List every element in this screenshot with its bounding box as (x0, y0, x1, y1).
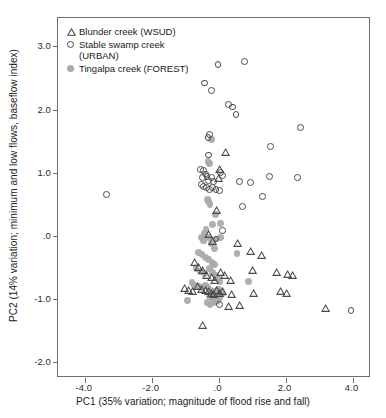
y-tick-label: 3.0 (37, 40, 51, 51)
legend-item: Stable swamp creek (URBAN) (66, 39, 188, 62)
legend-item-label: Blunder creek (WSUD) (79, 26, 176, 38)
x-tick-label: 2.0 (278, 382, 292, 393)
data-point-urban (236, 178, 243, 185)
x-tick-label: 4.0 (345, 382, 359, 393)
x-tick-label: .0 (214, 382, 222, 393)
data-point-urban (239, 203, 246, 210)
data-point-forest (211, 245, 218, 252)
y-tick-mark (53, 46, 58, 47)
data-point-urban (297, 124, 304, 131)
y-tick-label: -2.0 (34, 356, 51, 367)
y-tick-mark (53, 173, 58, 174)
data-point-urban (266, 173, 273, 180)
data-point-forest (217, 220, 224, 227)
y-tick-label: 2.0 (37, 103, 51, 114)
data-point-forest (206, 160, 213, 167)
legend-triangle-icon (66, 26, 79, 38)
data-point-urban (208, 87, 215, 94)
data-point-urban (348, 307, 355, 314)
x-tick-label: -2.0 (142, 382, 159, 393)
legend-item: Blunder creek (WSUD) (66, 26, 188, 38)
legend-item-label: Tingalpa creek (FOREST) (79, 63, 188, 75)
y-tick-mark (53, 110, 58, 111)
data-point-urban (103, 191, 110, 198)
data-point-forest (234, 250, 241, 257)
data-point-urban (216, 187, 223, 194)
data-point-urban (267, 143, 274, 150)
data-point-forest (184, 297, 191, 304)
x-axis-title: PC1 (35% variation; magnitude of flood r… (0, 396, 386, 407)
legend: Blunder creek (WSUD)Stable swamp creek (… (66, 26, 188, 75)
data-point-urban (294, 174, 301, 181)
y-tick-label: 1.0 (37, 166, 51, 177)
y-tick-label: -1.0 (34, 293, 51, 304)
scatter-plot-figure: PC2 (14% variation; minimum and low flow… (0, 0, 386, 418)
data-point-urban (201, 80, 208, 87)
plot-frame: Blunder creek (WSUD)Stable swamp creek (… (57, 17, 370, 377)
data-point-urban (247, 179, 254, 186)
legend-filled-circle-icon (66, 63, 79, 75)
y-tick-mark (53, 236, 58, 237)
data-point-forest (245, 278, 252, 285)
y-tick-mark (53, 362, 58, 363)
data-point-urban (205, 134, 212, 141)
y-axis-tick-labels: -2.0-1.0.01.02.03.0 (0, 17, 51, 377)
y-tick-label: .0 (43, 229, 51, 240)
legend-item-label: Stable swamp creek (URBAN) (79, 39, 165, 62)
y-tick-mark (53, 299, 58, 300)
data-point-urban (259, 193, 266, 200)
data-point-urban (215, 61, 222, 68)
data-point-urban (205, 152, 212, 159)
x-tick-label: -4.0 (75, 382, 92, 393)
data-point-urban (216, 301, 223, 308)
data-point-urban (219, 227, 226, 234)
legend-circle-icon (66, 39, 79, 51)
data-point-urban (241, 58, 248, 65)
data-point-urban (233, 111, 240, 118)
legend-item: Tingalpa creek (FOREST) (66, 63, 188, 75)
data-point-urban (229, 104, 236, 111)
data-point-forest (209, 221, 216, 228)
